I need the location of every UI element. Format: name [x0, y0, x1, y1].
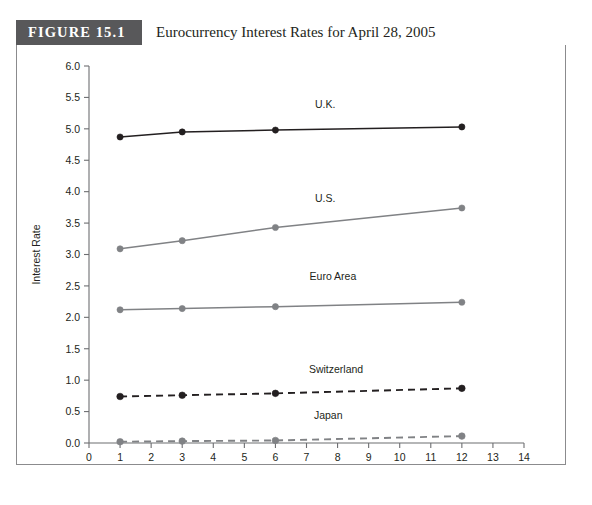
figure-body-panel: [16, 45, 566, 465]
figure-container: FIGURE 15.1 Eurocurrency Interest Rates …: [16, 20, 568, 468]
figure-title: Eurocurrency Interest Rates for April 28…: [142, 20, 568, 45]
figure-header: FIGURE 15.1 Eurocurrency Interest Rates …: [16, 20, 568, 45]
figure-number-label: FIGURE 15.1: [16, 20, 142, 45]
